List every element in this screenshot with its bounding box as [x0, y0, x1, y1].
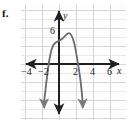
figure-container: f. [0, 0, 130, 123]
x-tick-label-neg2: −2 [38, 67, 49, 77]
coordinate-graph: −4 −2 2 4 6 6 x y [21, 4, 126, 120]
x-tick-label-neg4: −4 [21, 67, 32, 77]
y-axis-label: y [63, 11, 67, 21]
problem-item-label: f. [2, 8, 8, 19]
y-tick-label-6: 6 [50, 26, 55, 36]
x-tick-label-6: 6 [107, 67, 112, 77]
x-axis-label: x [117, 66, 121, 76]
x-tick-label-4: 4 [90, 67, 95, 77]
x-tick-label-2: 2 [73, 67, 78, 77]
function-curve [21, 4, 126, 120]
